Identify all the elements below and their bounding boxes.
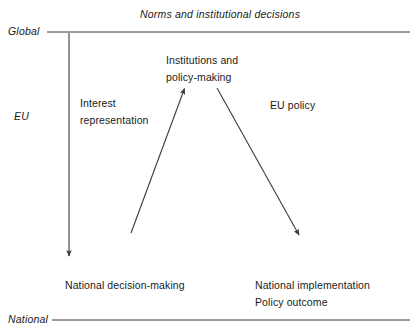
node-institutions-policy-making: Institutions and policy-making xyxy=(166,52,238,86)
node-interest-representation: Interest representation xyxy=(80,95,149,129)
node-national-decision-making: National decision-making xyxy=(65,277,185,294)
tier-label-global: Global xyxy=(8,25,40,37)
node-eu-policy: EU policy xyxy=(270,97,315,114)
node-national-implementation: National implementation Policy outcome xyxy=(255,277,370,311)
tier-label-national: National xyxy=(8,313,48,325)
policy-cycle-diagram: Norms and institutional decisions Global… xyxy=(0,0,410,334)
diagram-caption: Norms and institutional decisions xyxy=(140,8,300,20)
tier-label-eu: EU xyxy=(14,110,29,122)
